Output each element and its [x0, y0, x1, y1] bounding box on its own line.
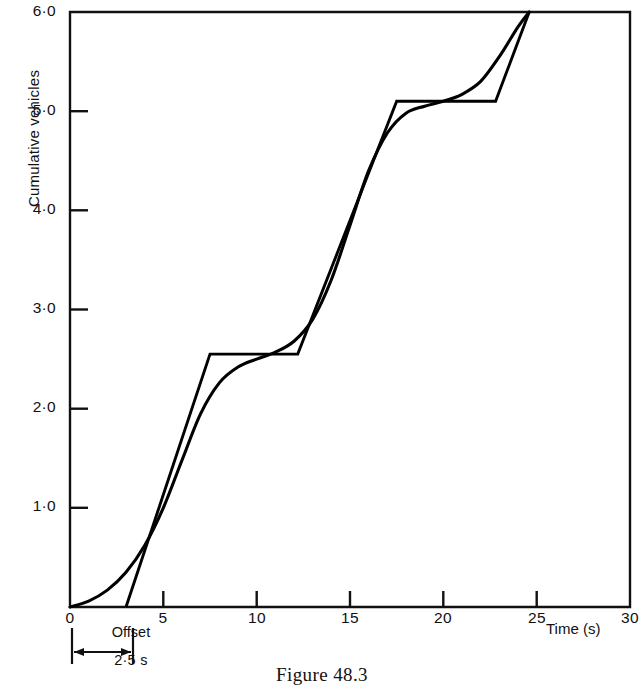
- y-tick-label-5: 5·0: [8, 101, 56, 119]
- axis-box: [70, 12, 630, 607]
- y-tick-label-1: 1·0: [8, 497, 56, 515]
- x-tick-label-15: 15: [328, 609, 372, 627]
- y-tick-label-6: 6·0: [8, 2, 56, 20]
- cumulative-vehicles-chart: [0, 0, 644, 697]
- x-axis-title: Time (s): [546, 620, 600, 637]
- y-tick-label-3: 3·0: [8, 299, 56, 317]
- y-axis-ticks: [70, 111, 88, 508]
- x-tick-label-30: 30: [608, 609, 644, 627]
- y-tick-label-4: 4·0: [8, 200, 56, 218]
- piecewise-offset-curve: [126, 12, 529, 607]
- offset-annotation-label: Offset: [66, 624, 196, 640]
- x-tick-label-20: 20: [421, 609, 465, 627]
- x-axis-ticks: [163, 591, 536, 607]
- y-tick-label-2: 2·0: [8, 398, 56, 416]
- figure-container: Cumulative vehicles 6·0 5·0 4·0 3·0 2·0 …: [0, 0, 644, 697]
- plot-frame: [70, 12, 630, 607]
- figure-caption: Figure 48.3: [0, 664, 644, 686]
- x-tick-label-10: 10: [235, 609, 279, 627]
